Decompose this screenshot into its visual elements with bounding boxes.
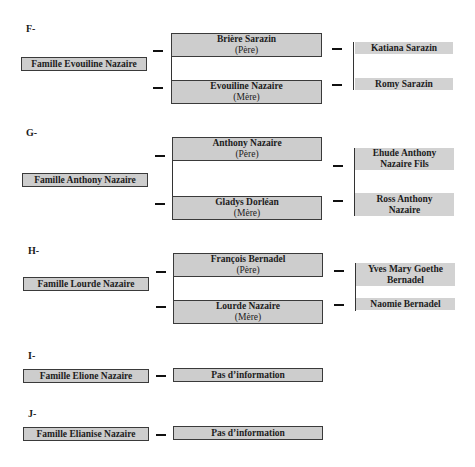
child-box: Romy Sarazin	[355, 78, 453, 90]
child-name-cont: Nazaire	[389, 205, 420, 216]
child-name: Romy Sarazin	[375, 79, 433, 90]
connector-dash	[332, 48, 342, 50]
connector-dash	[156, 271, 166, 273]
mother-name: Evouiline Nazaire	[210, 81, 282, 92]
father-role: (Père)	[236, 265, 259, 276]
mother-box: Gladys Dorléan (Mère)	[172, 196, 322, 220]
mother-role: (Mère)	[234, 208, 260, 219]
connector-dash	[334, 270, 344, 272]
mother-role: (Mère)	[235, 312, 261, 323]
mother-role: (Mère)	[233, 92, 259, 103]
section-letter: F-	[26, 23, 35, 34]
child-name: Naomie Bernadel	[370, 299, 440, 310]
child-name: Ehude Anthony	[373, 148, 437, 159]
father-name: François Bernadel	[211, 254, 286, 265]
connector-dash	[153, 87, 163, 89]
section-letter: I-	[28, 350, 35, 361]
mother-box: Lourde Nazaire (Mère)	[173, 300, 323, 324]
connector-dash	[334, 304, 344, 306]
parent-connector-line	[172, 160, 173, 197]
family-box: Famille Elione Nazaire	[23, 369, 149, 383]
child-box: Ehude Anthony Nazaire Fils	[355, 148, 454, 170]
child-name: Ross Anthony	[376, 194, 432, 205]
child-box: Ross Anthony Nazaire	[355, 193, 454, 216]
father-name: Anthony Nazaire	[212, 138, 281, 149]
connector-dash	[156, 375, 166, 377]
father-role: (Père)	[235, 149, 258, 160]
parent-connector-line	[173, 276, 174, 301]
connector-dash	[153, 50, 163, 52]
mother-box: Evouiline Nazaire (Mère)	[171, 80, 322, 104]
child-box: Yves Mary Goethe Bernadel	[356, 263, 455, 286]
connector-dash	[332, 84, 342, 86]
connector-dash	[155, 203, 165, 205]
mother-name: Lourde Nazaire	[216, 301, 280, 312]
child-box: Katiana Sarazin	[355, 42, 453, 54]
child-name-cont: Nazaire Fils	[380, 159, 429, 170]
child-name: Katiana Sarazin	[371, 43, 437, 54]
connector-dash	[156, 434, 166, 436]
family-box: Famille Anthony Nazaire	[22, 173, 148, 187]
father-role: (Père)	[235, 45, 258, 56]
child-name-cont: Bernadel	[387, 275, 424, 286]
section-letter: G-	[26, 127, 37, 138]
connector-dash	[156, 306, 166, 308]
connector-dash	[155, 155, 165, 157]
connector-dash	[333, 200, 343, 202]
connector-dash	[333, 165, 343, 167]
father-name: Brière Sarazin	[217, 34, 276, 45]
family-box: Famille Elianise Nazaire	[23, 427, 149, 441]
family-box: Famille Evouiline Nazaire	[21, 57, 147, 71]
parent-connector-line	[171, 56, 172, 80]
child-box: Naomie Bernadel	[356, 298, 455, 310]
mother-name: Gladys Dorléan	[215, 197, 279, 208]
father-box: François Bernadel (Père)	[173, 253, 323, 277]
father-box: Brière Sarazin (Père)	[171, 33, 322, 57]
family-box: Famille Lourde Nazaire	[23, 277, 149, 291]
section-letter: H-	[28, 245, 39, 256]
father-box: Anthony Nazaire (Père)	[172, 137, 322, 161]
child-name: Yves Mary Goethe	[368, 264, 443, 275]
section-letter: J-	[28, 408, 36, 419]
children-bracket	[353, 42, 354, 90]
info-box: Pas d’information	[173, 368, 323, 382]
info-box: Pas d’information	[173, 426, 323, 440]
